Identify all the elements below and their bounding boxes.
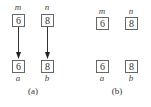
box-b: 8 — [41, 60, 54, 73]
box-b: 8 — [125, 60, 138, 73]
label-a: a — [11, 73, 25, 83]
label-b: b — [40, 73, 54, 83]
box-n: 8 — [41, 14, 54, 27]
box-m: 6 — [12, 14, 25, 27]
box-m: 6 — [96, 17, 109, 30]
label-b: b — [124, 73, 138, 83]
label-n: n — [40, 2, 54, 12]
label-m: m — [11, 2, 25, 12]
label-a: a — [95, 73, 109, 83]
label-m: m — [95, 6, 109, 16]
box-a: 6 — [12, 60, 25, 73]
box-n: 8 — [125, 17, 138, 30]
caption-a: (a) — [23, 86, 43, 96]
box-a: 6 — [96, 60, 109, 73]
caption-b: (b) — [107, 86, 127, 96]
label-n: n — [124, 6, 138, 16]
